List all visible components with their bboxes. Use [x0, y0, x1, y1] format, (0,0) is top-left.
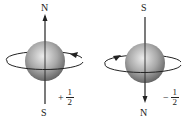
north-label: N — [41, 3, 48, 13]
axis-arrow-up-icon — [43, 14, 48, 21]
rotation-arrow-icon — [70, 52, 78, 58]
spin-denominator: 2 — [172, 98, 177, 107]
spin-value-minus-half: − 1 2 — [163, 88, 179, 107]
south-label: S — [41, 108, 47, 118]
spin-numerator: 1 — [172, 88, 177, 97]
spin-sign: + — [58, 92, 64, 103]
spin-value-plus-half: + 1 2 — [58, 88, 74, 107]
spin-down-panel: S N − 1 2 — [95, 0, 191, 123]
axis-arrow-down-icon — [143, 96, 148, 103]
spin-sign: − — [163, 92, 169, 103]
spin-denominator: 2 — [67, 98, 72, 107]
spin-up-panel: N S + 1 2 — [0, 0, 96, 123]
south-label: S — [141, 3, 147, 13]
spin-up-diagram — [0, 0, 96, 123]
north-label: N — [140, 108, 147, 118]
spin-numerator: 1 — [67, 88, 72, 97]
